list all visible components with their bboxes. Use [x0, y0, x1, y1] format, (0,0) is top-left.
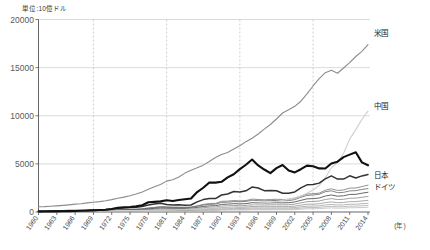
x-tick-label: 2008 — [318, 214, 333, 231]
y-tick-label: 20000 — [10, 15, 34, 25]
x-tick-label: 1972 — [98, 214, 113, 231]
x-tick-label: 1999 — [263, 214, 278, 231]
x-axis-year-unit: (年) — [394, 221, 405, 230]
x-tick-label: 2014 — [354, 214, 369, 231]
line-chart: 05000100001500020000 1960196319661969197… — [0, 0, 430, 250]
series-label-日本: 日本 — [374, 170, 389, 180]
x-tick-label: 1990 — [208, 214, 223, 231]
series-line-米国 — [39, 45, 369, 207]
horizontal-gridlines — [39, 20, 371, 164]
x-tick-label: 1978 — [134, 214, 149, 231]
x-tick-label: 1993 — [226, 214, 241, 231]
x-tick-label: 1996 — [244, 214, 259, 231]
y-axis-tick-labels: 05000100001500020000 — [10, 15, 34, 218]
x-tick-label: 2002 — [281, 214, 296, 231]
series-label-中国: 中国 — [374, 101, 388, 111]
x-tick-label: 1975 — [116, 214, 131, 231]
x-tick-label: 1960 — [25, 214, 40, 231]
series-label-米国: 米国 — [374, 28, 388, 38]
x-axis-tick-labels: 1960196319661969197219751978198119841987… — [25, 214, 369, 231]
x-tick-label: 2011 — [336, 214, 350, 230]
y-tick-label: 15000 — [10, 63, 34, 73]
chart-container: 単位:10億ドル 05000100001500020000 1960196319… — [0, 0, 430, 250]
y-tick-label: 10000 — [10, 111, 34, 121]
x-tick-label: 1969 — [80, 214, 95, 231]
y-tick-label: 5000 — [15, 159, 34, 169]
x-tick-label: 2005 — [299, 214, 314, 231]
x-tick-label: 1984 — [171, 214, 186, 231]
x-tick-label: 1963 — [43, 214, 58, 231]
x-axis-unit-label: (年) — [394, 221, 405, 230]
series-line-中国 — [39, 111, 369, 211]
x-tick-label: 1981 — [153, 214, 168, 231]
series-end-labels: 米国中国日本ドイツ — [374, 28, 395, 192]
x-tick-label: 1987 — [189, 214, 204, 231]
x-tick-label: 1966 — [61, 214, 76, 231]
series-label-ドイツ: ドイツ — [374, 183, 395, 192]
data-series-lines — [39, 45, 369, 212]
